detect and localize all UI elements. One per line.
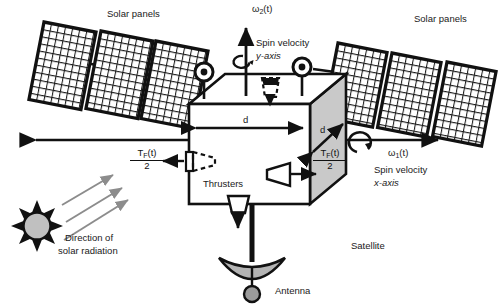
solar-panel-left-1 (29, 22, 96, 110)
label-dimension-front: d (243, 114, 248, 125)
sun-icon (11, 200, 63, 252)
x-axis-rotation-indicator (349, 132, 371, 152)
label-antenna: Antenna (275, 285, 310, 296)
label-spin-velocity-y-line1: Spin velocity (256, 37, 309, 48)
omega1-argument: (t) (399, 147, 408, 158)
diagram-canvas (0, 0, 500, 308)
label-solar-panels-right: Solar panels (414, 13, 467, 24)
solar-radiation-rays (62, 175, 128, 240)
label-spin-velocity-y-line2: y-axis (256, 50, 281, 61)
label-satellite: Satellite (351, 240, 385, 251)
omega2-argument: (t) (263, 3, 272, 14)
force-left-numerator: TF(t) (130, 148, 164, 159)
label-solar-panels-left: Solar panels (107, 8, 160, 19)
label-thrusters: Thrusters (203, 178, 243, 189)
solar-array-left (29, 22, 208, 129)
solar-panel-right-2 (377, 53, 441, 137)
label-spin-velocity-x-line2: x-axis (374, 177, 399, 188)
solar-panel-right-3 (432, 62, 496, 146)
label-dimension-depth: d (320, 124, 325, 135)
label-spin-velocity-x-line1: Spin velocity (374, 164, 427, 175)
thruster-bottom (228, 196, 249, 228)
force-right-denominator: 2 (313, 161, 347, 171)
label-force-right: TF(t) 2 (313, 148, 347, 171)
satellite-diagram: Solar panels Solar panels ω2(t) Spin vel… (0, 0, 500, 308)
label-omega1: ω1(t) (388, 147, 408, 160)
thruster-top-cap (262, 78, 279, 85)
force-right-numerator: TF(t) (313, 148, 347, 159)
sun-disc (24, 213, 51, 240)
label-force-left: TF(t) 2 (130, 148, 164, 171)
label-solar-radiation-line1: Direction of (65, 232, 113, 243)
antenna-feed-horn (244, 286, 260, 302)
label-omega2: ω2(t) (252, 3, 272, 16)
label-solar-radiation-line2: solar radiation (58, 245, 118, 256)
force-left-denominator: 2 (130, 161, 164, 171)
